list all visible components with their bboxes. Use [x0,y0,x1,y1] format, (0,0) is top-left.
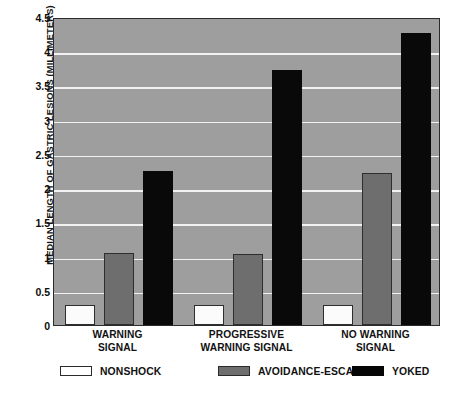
bar-nonshock-2 [194,305,224,325]
gridline [54,53,439,55]
category-label-line: WARNING SIGNAL [182,342,311,355]
category-label-line: NO WARNING [311,329,440,342]
x-axis-category-label: NO WARNINGSIGNAL [311,329,440,354]
y-axis-tick-label: 2 [44,184,50,194]
y-axis-tick-label: 2.5 [35,150,50,160]
y-axis-tick-label: 4.5 [35,13,50,23]
category-label-line: PROGRESSIVE [182,329,311,342]
y-axis-tick-labels: 00.511.522.533.544.5 [12,0,50,395]
y-axis-tick-label: 4 [44,47,50,57]
x-axis-category-label: PROGRESSIVEWARNING SIGNAL [182,329,311,354]
clipped-caption-strip [8,386,223,393]
legend-swatch-icon [352,366,384,376]
bar-nonshock-1 [65,305,95,325]
y-axis-tick-label: 3 [44,116,50,126]
legend-item-avoidance-escape[interactable]: AVOIDANCE-ESCAPE [218,363,367,379]
legend-item-nonshock[interactable]: NONSHOCK [60,363,161,379]
chart-figure: MEDIAN LENGTH OF GASTRIC LESIONS (MILLIM… [0,0,454,395]
chart-legend: NONSHOCKAVOIDANCE-ESCAPEYOKED [0,363,454,381]
bar-yoked-1 [143,171,173,325]
bar-avoidance-escape-3 [362,173,392,325]
y-axis-tick-label: 1 [44,253,50,263]
category-label-line: WARNING [53,329,182,342]
gridline [54,156,439,158]
legend-label: NONSHOCK [100,366,161,377]
bar-avoidance-escape-2 [233,254,263,325]
legend-label: YOKED [392,366,429,377]
gridline [54,122,439,124]
legend-swatch-icon [60,366,92,376]
x-axis-category-label: WARNINGSIGNAL [53,329,182,354]
plot-area [53,18,440,326]
category-label-line: SIGNAL [53,342,182,355]
bar-yoked-2 [272,70,302,325]
y-axis-tick-label: 0.5 [35,287,50,297]
y-axis-tick-label: 0 [44,321,50,331]
gridline [54,87,439,89]
legend-swatch-icon [218,366,250,376]
category-label-line: SIGNAL [311,342,440,355]
legend-item-yoked[interactable]: YOKED [352,363,429,379]
legend-label: AVOIDANCE-ESCAPE [258,366,367,377]
bar-nonshock-3 [323,305,353,325]
x-axis-category-labels: WARNINGSIGNALPROGRESSIVEWARNING SIGNALNO… [53,329,440,355]
y-axis-tick-label: 3.5 [35,81,50,91]
bar-yoked-3 [401,33,431,325]
y-axis-tick-label: 1.5 [35,218,50,228]
bar-avoidance-escape-1 [104,253,134,325]
